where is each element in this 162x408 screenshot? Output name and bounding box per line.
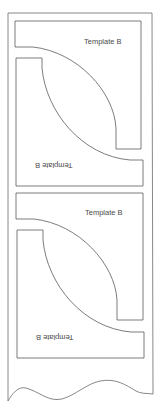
- template-label-bottom-1-upside-down: Template B: [35, 161, 73, 169]
- template-page: Template B Template B Template B Templat…: [0, 0, 162, 408]
- template-drawing: [0, 0, 162, 408]
- outer-frame: [8, 13, 153, 401]
- template-piece-top-1: [15, 21, 141, 149]
- template-label-top-1: Template B: [84, 38, 122, 46]
- template-label-bottom-2-upside-down: Template B: [36, 333, 74, 341]
- template-label-top-2: Template B: [85, 209, 123, 217]
- template-piece-top-2: [16, 193, 143, 320]
